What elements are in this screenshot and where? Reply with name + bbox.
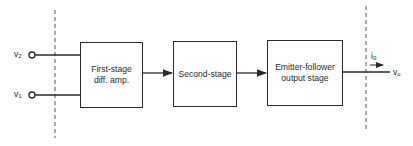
output-voltage-label: vo: [393, 67, 401, 79]
vo-subscript: o: [397, 71, 400, 77]
first-stage-line-1: First-stage: [91, 64, 132, 75]
input-v1-label: v1: [14, 89, 22, 101]
output-stage-line-1: Emitter-follower: [275, 62, 335, 73]
first-stage-line-2: diff. amp.: [91, 75, 132, 86]
v2-subscript: 2: [18, 53, 21, 59]
output-stage-line-2: output stage: [275, 73, 335, 84]
v2-terminal-icon: [29, 52, 35, 58]
io-subscript: 0: [373, 55, 376, 61]
v1-terminal-icon: [29, 92, 35, 98]
second-stage-block: Second-stage: [173, 41, 237, 107]
second-stage-line-1: Second-stage: [178, 69, 231, 80]
input-v2-label: v2: [14, 49, 22, 61]
output-current-label: i0: [371, 51, 376, 63]
v1-subscript: 1: [18, 93, 21, 99]
output-stage-block: Emitter-follower output stage: [267, 40, 343, 106]
first-stage-block: First-stage diff. amp.: [80, 42, 143, 108]
